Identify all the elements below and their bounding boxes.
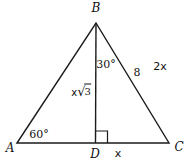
angle-label-30: 30°: [96, 58, 116, 71]
vertex-label-d: D: [90, 147, 100, 161]
segment-dc-label: x: [115, 147, 122, 160]
angle-label-60: 60°: [29, 128, 49, 141]
vertex-label-b: B: [92, 1, 101, 15]
geometry-figure: B A C D 60° 30° 8 2x x x √ 3: [0, 0, 190, 164]
vertex-label-a: A: [6, 141, 15, 155]
side-bc-expression-label: 2x: [153, 60, 167, 73]
triangle-outline: [17, 23, 169, 143]
altitude-label: x √ 3: [71, 84, 91, 99]
right-angle-mark: [96, 131, 108, 143]
altitude-line: [96, 23, 97, 143]
altitude-radicand: 3: [84, 84, 90, 97]
side-bc-length-label: 8: [134, 66, 141, 79]
vertex-label-c: C: [174, 140, 183, 154]
